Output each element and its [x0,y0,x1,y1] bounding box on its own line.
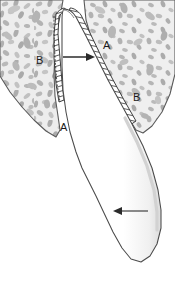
label-a-lower: A [60,122,67,133]
label-a-upper: A [103,40,110,51]
label-b-left: B [36,55,43,66]
anatomical-diagram [0,0,175,291]
label-b-right: B [133,92,140,103]
figure-container: A B B A [0,0,175,291]
